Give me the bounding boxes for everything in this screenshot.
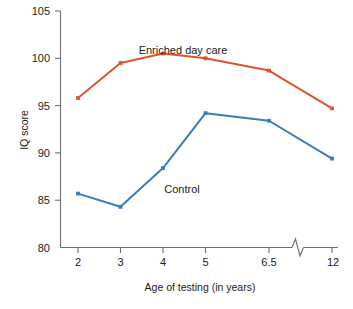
series-layer xyxy=(76,52,334,209)
y-tick-label-85: 85 xyxy=(38,194,50,206)
x-tick-label-5: 5 xyxy=(202,256,208,268)
series-line-control xyxy=(78,113,332,207)
y-tick-label-80: 80 xyxy=(38,242,50,254)
annotation-control: Control xyxy=(164,183,199,195)
series-line-enriched-day-care xyxy=(78,54,332,109)
data-point xyxy=(76,96,80,100)
y-tick-label-95: 95 xyxy=(38,100,50,112)
data-point xyxy=(119,61,123,65)
data-point xyxy=(204,111,208,115)
iq-score-line-chart: 105 100 95 90 85 80 2 3 4 5 6.5 12 IQ sc… xyxy=(0,0,353,309)
data-point xyxy=(330,157,334,161)
x-tick-label-4: 4 xyxy=(160,256,166,268)
y-tick-label-90: 90 xyxy=(38,147,50,159)
x-tick-label-2: 2 xyxy=(75,256,81,268)
data-point xyxy=(76,192,80,196)
y-tick-label-100: 100 xyxy=(32,52,50,64)
data-point xyxy=(119,205,123,209)
data-point xyxy=(330,107,334,111)
x-axis-title: Age of testing (in years) xyxy=(145,281,256,293)
data-point xyxy=(267,119,271,123)
chart-canvas: 105 100 95 90 85 80 2 3 4 5 6.5 12 IQ sc… xyxy=(0,0,353,309)
x-axis-break-icon xyxy=(292,239,304,256)
data-point xyxy=(267,69,271,73)
y-axis-title: IQ score xyxy=(18,110,30,150)
y-tick-label-105: 105 xyxy=(32,5,50,17)
data-point xyxy=(204,56,208,60)
annotation-enriched-day-care: Enriched day care xyxy=(139,44,228,56)
x-tick-label-12: 12 xyxy=(327,256,339,268)
data-point xyxy=(161,166,165,170)
x-tick-label-3: 3 xyxy=(117,256,123,268)
x-tick-label-6-5: 6.5 xyxy=(261,256,276,268)
